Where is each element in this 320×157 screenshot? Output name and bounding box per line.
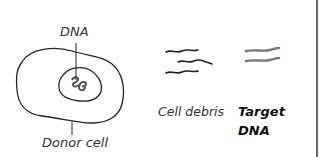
donor-cell-label: Donor cell [42, 135, 108, 150]
donor-cell-outline [17, 49, 124, 123]
cell-debris-icon [166, 50, 212, 73]
dna-label: DNA [60, 24, 89, 39]
target-dna-label-line2: DNA [238, 121, 285, 140]
target-dna-label-line1: Target [238, 102, 285, 121]
cell-debris-label: Cell debris [158, 104, 224, 119]
target-dna-icon [246, 48, 279, 61]
dna-coil-icon [72, 77, 86, 90]
target-dna-label: Target DNA [238, 102, 285, 140]
panel-border-line [316, 0, 318, 157]
